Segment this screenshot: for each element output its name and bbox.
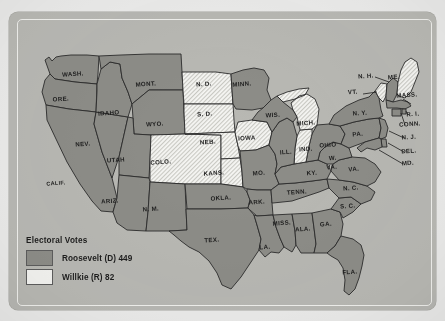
state-label-ks: KANS. (203, 168, 224, 176)
state-label-az: ARIZ. (101, 196, 119, 204)
legend-swatch-willkie (26, 269, 53, 285)
state-sd (184, 104, 235, 134)
state-label-nd: N. D. (196, 79, 212, 87)
state-label-wv2: VA. (326, 163, 337, 171)
state-label-or: ORE. (52, 94, 69, 102)
state-label-de: DEL. (401, 146, 417, 154)
screenshot-root: WASH.ORE.CALIF.NEV.IDAHOMONT.WYO.UTAHARI… (0, 0, 445, 321)
state-label-ut: UTAH (107, 155, 125, 163)
state-ct (392, 109, 401, 116)
state-label-il: ILL. (279, 148, 292, 156)
state-label-wy: WYO. (146, 119, 164, 127)
state-label-ne: NEB. (200, 137, 216, 145)
state-label-id: IDAHO (98, 108, 120, 116)
state-label-ms: MISS. (272, 218, 291, 226)
state-label-in: IND. (299, 145, 313, 153)
state-nd (182, 72, 233, 104)
state-label-ri: R. I. (406, 110, 419, 118)
state-label-tn: TENN. (287, 187, 307, 195)
state-label-ca: CALIF. (46, 179, 66, 186)
state-label-wi: WIS. (265, 111, 280, 119)
state-label-nm: N. M. (142, 204, 159, 212)
legend-entry-willkie: Willkie (R) 82 (26, 269, 132, 285)
state-label-ky: KY. (306, 169, 317, 177)
legend-entry-roosevelt: Roosevelt (D) 449 (26, 250, 132, 266)
state-label-al: ALA. (295, 224, 311, 232)
state-mn (231, 68, 271, 110)
legend-label-roosevelt: Roosevelt (D) 449 (62, 254, 132, 263)
state-label-me: ME. (388, 73, 400, 81)
state-label-ny: N. Y. (352, 109, 367, 117)
state-label-mo: MO. (252, 169, 265, 177)
state-label-la: LA. (259, 243, 270, 251)
state-label-mi: MICH. (296, 118, 315, 126)
state-label-sc: S. C. (340, 201, 356, 209)
state-label-mn: MINN. (232, 79, 251, 87)
state-label-sd: S. D. (197, 109, 213, 117)
state-label-oh: OHIO (319, 140, 336, 148)
state-label-ga: GA. (320, 220, 332, 228)
state-ks (221, 158, 243, 187)
state-label-nj: N. J. (401, 133, 416, 141)
state-label-co: COLO. (150, 157, 171, 165)
map-legend: Electoral Votes Roosevelt (D) 449 Willki… (26, 236, 132, 288)
legend-title: Electoral Votes (26, 236, 132, 245)
state-label-md: MD. (401, 159, 414, 167)
state-label-tx: TEX. (204, 235, 219, 243)
state-label-ma: MASS. (396, 90, 417, 98)
state-label-ok: OKLA. (210, 193, 231, 201)
legend-label-willkie: Willkie (R) 82 (62, 273, 114, 282)
legend-swatch-roosevelt (26, 250, 53, 266)
state-label-wv: W. (329, 154, 337, 162)
state-label-mt: MONT. (135, 79, 156, 87)
state-label-fl: FLA. (342, 267, 357, 275)
state-label-va: VA. (348, 165, 359, 173)
state-label-nh: N. H. (358, 71, 374, 79)
state-label-vt: VT. (348, 88, 358, 96)
state-label-pa: PA. (352, 130, 363, 138)
state-label-ct: CONN. (399, 119, 421, 127)
state-label-ar: ARK. (248, 197, 265, 205)
state-label-nv: NEV. (75, 139, 91, 147)
state-label-ia: IOWA (238, 133, 256, 141)
state-label-nc: N. C. (343, 183, 359, 191)
